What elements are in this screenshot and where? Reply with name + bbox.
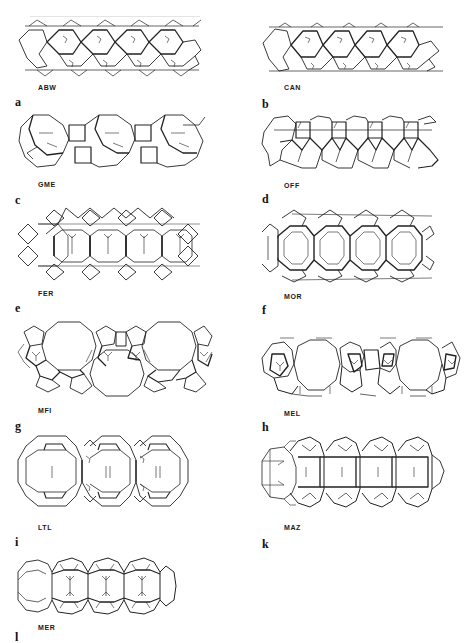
mfi-framework-drawing [16,322,212,398]
maz-framework-drawing [262,437,444,507]
fer-framework-drawing [16,208,202,284]
framework-code-label: MEL [284,410,301,417]
framework-code-label: GME [38,181,56,188]
framework-code-label: MOR [284,293,302,300]
panel-letter: k [262,537,269,552]
panel-letter: i [15,535,18,550]
framework-code-label: MER [38,624,55,631]
framework-code-label: MFI [38,407,52,414]
mer-framework-drawing [16,558,180,614]
panel-d-off: OFF d [234,100,468,210]
framework-code-label: LTL [38,524,52,531]
panel-l-mer: MER l [0,550,234,643]
mor-framework-drawing [262,208,434,282]
panel-letter: l [15,630,18,643]
framework-code-label: OFF [284,182,300,189]
ltl-framework-drawing [16,436,196,506]
panel-h-mel: MEL h [234,310,468,430]
framework-code-label: FER [38,290,54,297]
abw-framework-drawing [17,18,207,76]
panel-e-fer: FER e [0,200,234,310]
panel-c-gme: GME c [0,100,234,210]
panel-g-mfi: MFI g [0,310,234,430]
panel-b-can: CAN b [234,0,468,110]
framework-code-label: ABW [38,84,57,91]
can-framework-drawing [261,23,451,75]
gme-framework-drawing [17,113,207,171]
panel-i-ltl: LTL i [0,425,234,550]
panel-a-abw: ABW a [0,0,234,110]
panel-f-mor: MOR f [234,200,468,310]
off-framework-drawing [262,116,442,170]
framework-code-label: CAN [284,84,301,91]
panel-k-maz: MAZ k [234,425,468,550]
mel-framework-drawing [260,338,460,400]
framework-code-label: MAZ [284,524,301,531]
